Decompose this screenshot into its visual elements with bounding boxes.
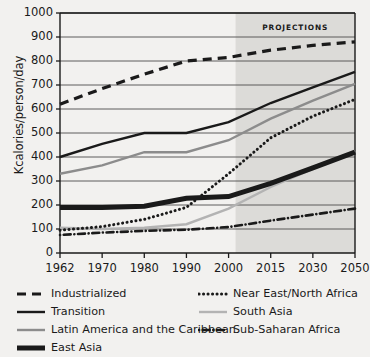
legend-swatch [16, 342, 46, 354]
legend-item[interactable]: East Asia [16, 342, 102, 354]
x-tick-label: 1962 [45, 261, 74, 275]
legend-label: Industrialized [51, 288, 126, 299]
legend-label: South Asia [233, 306, 293, 317]
x-tick-label: 1990 [172, 261, 201, 275]
legend-label: Near East/North Africa [233, 288, 358, 299]
x-tick-label: 2030 [298, 261, 327, 275]
legend-label: Sub-Saharan Africa [233, 324, 340, 335]
chart-container: 01002003004005006007008009001000 Kcalori… [0, 0, 370, 357]
legend-swatch [16, 306, 46, 318]
x-tick-label: 2015 [256, 261, 285, 275]
x-tick-label: 2050 [340, 261, 369, 275]
x-tick-label: 2000 [214, 261, 243, 275]
legend-item[interactable]: Transition [16, 306, 105, 318]
legend-item[interactable]: Sub-Saharan Africa [198, 324, 340, 336]
legend-item[interactable]: Industrialized [16, 288, 126, 300]
legend-item[interactable]: Near East/North Africa [198, 288, 358, 300]
legend-swatch [198, 306, 228, 318]
legend-swatch [16, 288, 46, 300]
legend-item[interactable]: South Asia [198, 306, 293, 318]
x-tick-label: 1980 [130, 261, 159, 275]
chart-legend: IndustrializedTransitionLatin America an… [0, 283, 370, 357]
x-tick-label: 1970 [88, 261, 117, 275]
legend-label: East Asia [51, 342, 102, 353]
legend-label: Transition [51, 306, 105, 317]
legend-swatch [16, 324, 46, 336]
projections-label: PROJECTIONS [262, 23, 328, 32]
legend-swatch [198, 324, 228, 336]
legend-swatch [198, 288, 228, 300]
